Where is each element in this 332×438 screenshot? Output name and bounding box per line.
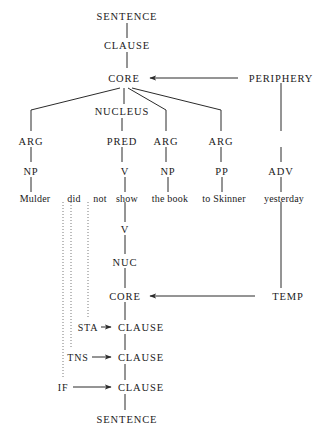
node-sentence-top: SENTENCE	[97, 11, 158, 22]
node-arg-2: ARG	[154, 136, 179, 147]
edge-group-cat-to-phrase	[31, 147, 221, 162]
node-nucleus: NUCLEUS	[95, 106, 150, 117]
node-op-temp: TEMP	[272, 291, 304, 302]
node-periphery: PERIPHERY	[249, 73, 314, 84]
node-pp-1: PP	[215, 166, 228, 177]
node-adv-1: ADV	[268, 166, 293, 177]
node-op-v: V	[121, 224, 129, 235]
word-show: show	[116, 193, 138, 204]
node-pred: PRED	[107, 136, 137, 147]
word-not: not	[93, 193, 106, 204]
edge-group-phrase-to-word	[31, 177, 281, 192]
node-op-clause-tns: CLAUSE	[118, 352, 164, 363]
node-op-sta: STA	[78, 322, 99, 333]
word-yesterday: yesterday	[264, 193, 304, 204]
word-did: did	[67, 193, 80, 204]
node-op-clause-if: CLAUSE	[118, 382, 164, 393]
word-the-book: the book	[152, 193, 188, 204]
node-op-tns: TNS	[67, 352, 88, 363]
node-np-1: NP	[23, 166, 38, 177]
node-arg-1: ARG	[19, 136, 44, 147]
word-mulder: Mulder	[20, 193, 51, 204]
node-clause-top: CLAUSE	[104, 40, 150, 51]
node-np-2: NP	[160, 166, 175, 177]
node-op-nuc: NUC	[113, 257, 138, 268]
node-op-core: CORE	[109, 291, 141, 302]
tree-canvas: SENTENCE CLAUSE CORE PERIPHERY NUCLEUS A…	[0, 0, 332, 438]
node-op-clause-sta: CLAUSE	[118, 322, 164, 333]
node-op-if: IF	[58, 382, 69, 393]
node-op-sentence: SENTENCE	[97, 414, 158, 425]
node-core: CORE	[108, 73, 140, 84]
node-v-1: V	[121, 166, 129, 177]
node-arg-3: ARG	[209, 136, 234, 147]
rrg-tree-diagram: SENTENCE CLAUSE CORE PERIPHERY NUCLEUS A…	[0, 0, 332, 438]
word-to-skinner: to Skinner	[202, 193, 246, 204]
